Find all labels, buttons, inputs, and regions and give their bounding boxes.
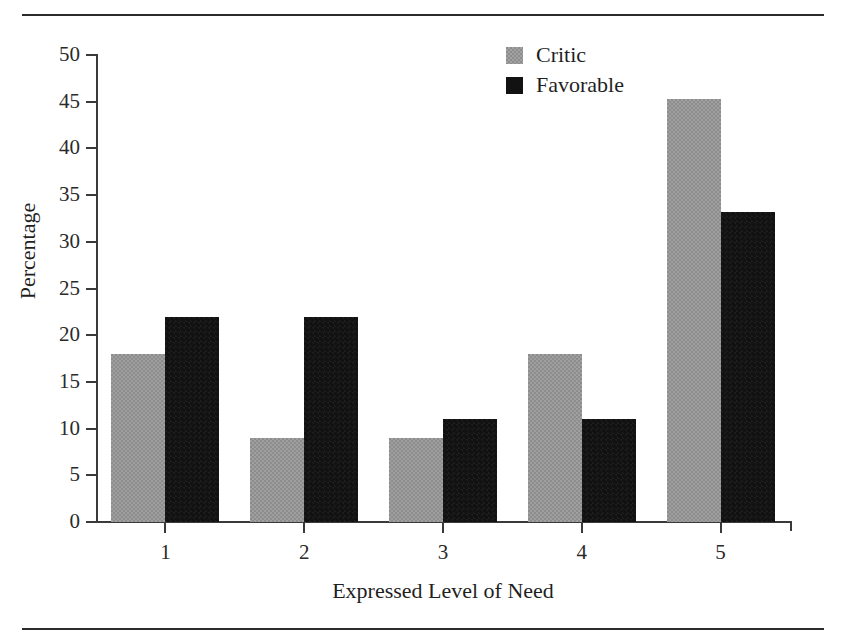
y-axis-tick-label: 50	[34, 44, 80, 65]
bar-critic-level-2	[250, 438, 304, 522]
y-axis-tick-label: 15	[34, 371, 80, 392]
x-axis-tick-label: 2	[274, 540, 334, 564]
y-axis-title: Percentage	[15, 151, 41, 351]
x-axis-tick-mark	[303, 522, 305, 533]
x-axis-tick-mark	[442, 522, 444, 533]
bar-favorable-level-2	[304, 317, 358, 522]
y-axis-tick-label: 5	[34, 464, 80, 485]
x-axis-tick-mark	[164, 522, 166, 533]
bar-favorable-level-5	[721, 212, 775, 522]
bar-critic-level-5	[667, 99, 721, 522]
bar-favorable-level-1	[165, 317, 219, 522]
plot-area	[96, 55, 790, 522]
bar-favorable-level-4	[582, 419, 636, 522]
bar-critic-level-1	[111, 354, 165, 522]
top-rule	[22, 14, 824, 16]
bar-critic-level-3	[389, 438, 443, 522]
figure-container: Critic Favorable 05101520253035404550 12…	[0, 0, 846, 640]
x-axis-tick-label: 4	[552, 540, 612, 564]
bottom-rule	[22, 628, 824, 630]
x-axis-tick-label: 3	[413, 540, 473, 564]
x-axis-tick-mark	[581, 522, 583, 533]
x-axis-tick-label: 5	[691, 540, 751, 564]
y-axis-tick-label: 45	[34, 91, 80, 112]
x-axis-tick-label: 1	[135, 540, 195, 564]
x-axis-end-cap	[790, 521, 792, 531]
y-axis-tick-label: 10	[34, 418, 80, 439]
bar-favorable-level-3	[443, 419, 497, 522]
x-axis-title: Expressed Level of Need	[96, 578, 790, 604]
x-axis-tick-mark	[720, 522, 722, 533]
bar-critic-level-4	[528, 354, 582, 522]
y-axis-tick-label: 0	[34, 511, 80, 532]
